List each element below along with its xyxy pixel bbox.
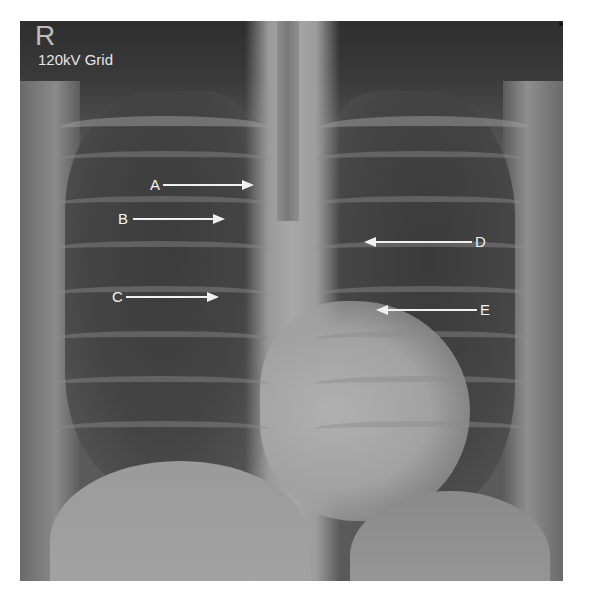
annotation-label-e: E <box>480 302 490 318</box>
corner-mark <box>559 22 563 26</box>
rib <box>50 376 270 392</box>
annotation-label-d: D <box>475 234 486 250</box>
rib <box>315 241 535 257</box>
arrow-right-icon <box>133 218 223 220</box>
rib <box>315 196 530 212</box>
rib <box>50 286 270 302</box>
rib <box>315 151 525 167</box>
side-marker: R <box>35 21 55 51</box>
rib <box>50 241 270 257</box>
arrow-right-icon <box>163 184 252 186</box>
rib <box>55 196 270 212</box>
rib <box>315 331 535 347</box>
rib <box>315 376 535 392</box>
annotation-label-c: C <box>112 289 123 305</box>
rib <box>55 421 270 437</box>
rib <box>50 331 270 347</box>
left-clavicle <box>320 116 530 140</box>
arrow-left-icon <box>378 309 477 311</box>
technique-label: 120kV Grid <box>38 51 113 69</box>
arrow-right-icon <box>126 296 217 298</box>
trachea <box>277 21 299 221</box>
rib <box>60 151 270 167</box>
right-clavicle <box>60 116 270 140</box>
rib <box>315 421 530 437</box>
arrow-left-icon <box>366 241 472 243</box>
annotation-label-b: B <box>118 211 128 227</box>
annotation-label-a: A <box>150 177 160 193</box>
rib <box>315 286 535 302</box>
